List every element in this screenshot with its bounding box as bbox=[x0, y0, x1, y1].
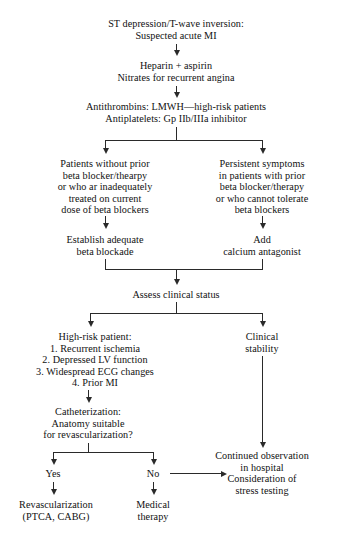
arrowhead-n6-left bbox=[88, 321, 94, 327]
label-no: No bbox=[133, 468, 173, 480]
node-add-calcium-antagonist: Add calcium antagonist bbox=[187, 234, 337, 257]
arrowhead-n3-left bbox=[103, 148, 109, 154]
connector-n5-merge-bar bbox=[105, 269, 263, 270]
node-continued-observation-stress-testing: Continued observation in hospital Consid… bbox=[186, 450, 338, 496]
node-clinical-stability: Clinical stability bbox=[207, 331, 317, 354]
connector-n7right-n10right bbox=[262, 356, 263, 444]
node-establish-adequate-beta-blockade: Establish adequate beta blockade bbox=[30, 234, 180, 257]
connector-n8-stem bbox=[88, 443, 89, 452]
connector-n8-split-bar bbox=[53, 452, 153, 453]
connector-n5right-up bbox=[262, 259, 263, 269]
arrowhead-merge-n6 bbox=[174, 279, 180, 285]
arrowhead-n3-right bbox=[260, 148, 266, 154]
arrowhead-yes-outcome bbox=[51, 489, 57, 495]
connector-n3-stem bbox=[176, 127, 177, 140]
arrowhead-n7right-n10right bbox=[260, 442, 266, 448]
node-heparin-aspirin-nitrates: Heparin + aspirin Nitrates for recurrent… bbox=[56, 60, 296, 83]
arrowhead-n6-right bbox=[260, 321, 266, 327]
arrowhead-n4left-n5left bbox=[103, 223, 109, 229]
node-st-depression-suspected-mi: ST depression/T-wave inversion: Suspecte… bbox=[61, 18, 291, 41]
connector-n3-split-bar bbox=[105, 140, 263, 141]
arrowhead-n8-yes bbox=[51, 459, 57, 465]
arrowhead-no-outcome bbox=[151, 489, 157, 495]
node-persistent-symptoms-prior-beta-blocker: Persistent symptoms in patients with pri… bbox=[186, 158, 338, 216]
connector-n5left-up bbox=[105, 259, 106, 269]
arrowhead-n8-no bbox=[151, 459, 157, 465]
node-revascularization-ptca-cabg: Revascularization (PTCA, CABG) bbox=[0, 499, 116, 522]
clinical-algorithm-flowchart: ST depression/T-wave inversion: Suspecte… bbox=[0, 0, 342, 537]
node-high-risk-patient-criteria: High-risk patient: 1. Recurrent ischemia… bbox=[10, 331, 180, 389]
connector-n6-split-bar bbox=[90, 313, 262, 314]
arrowhead-n7left-n8 bbox=[86, 397, 92, 403]
node-catheterization-anatomy-suitable: Catheterization: Anatomy suitable for re… bbox=[8, 406, 168, 441]
node-assess-clinical-status: Assess clinical status bbox=[76, 289, 276, 301]
arrowhead-n4right-n5right bbox=[260, 223, 266, 229]
arrowhead-n1-n2 bbox=[174, 50, 180, 56]
node-antithrombins-antiplatelets: Antithrombins: LMWH—high-risk patients A… bbox=[46, 101, 306, 124]
connector-n6-stem bbox=[176, 302, 177, 313]
arrowhead-n2-n3 bbox=[174, 92, 180, 98]
label-yes: Yes bbox=[28, 468, 78, 480]
node-medical-therapy: Medical therapy bbox=[118, 499, 188, 522]
node-patients-without-prior-beta-blocker: Patients without prior beta blocker/thea… bbox=[30, 158, 180, 216]
